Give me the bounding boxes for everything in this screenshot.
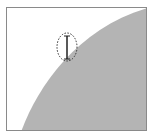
drawing-canvas[interactable] (6, 7, 147, 131)
gray-arc-shape[interactable] (21, 8, 147, 131)
ellipse-resize-cursor-icon (57, 33, 77, 61)
canvas-graphics (7, 8, 147, 131)
